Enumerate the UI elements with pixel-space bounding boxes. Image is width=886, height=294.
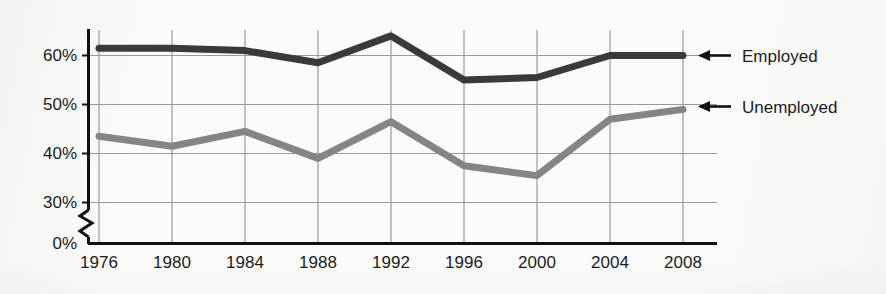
x-tick-label-1992: 1992 <box>372 253 410 272</box>
y-axis-labels: 60% 50% 40% 30% 0% <box>43 46 77 253</box>
y-tick-label-30: 30% <box>43 193 77 212</box>
left-arrow-icon-unemployed <box>698 101 731 112</box>
y-tick-label-50: 50% <box>43 95 77 114</box>
y-tick-label-60: 60% <box>43 46 77 65</box>
x-tick-label-2004: 2004 <box>591 253 629 272</box>
legend-employed: Employed <box>698 47 818 66</box>
x-tick-label-1980: 1980 <box>153 253 191 272</box>
legend-label-employed: Employed <box>742 47 818 66</box>
line-chart-figure: 60% 50% 40% 30% 0% 1976 1980 1984 1988 1… <box>0 0 886 294</box>
x-tick-label-1988: 1988 <box>299 253 337 272</box>
left-arrow-icon-employed <box>698 50 731 61</box>
x-tick-label-1984: 1984 <box>226 253 264 272</box>
chart-svg: 60% 50% 40% 30% 0% 1976 1980 1984 1988 1… <box>0 0 886 294</box>
legend-unemployed: Unemployed <box>698 98 837 117</box>
y-tick-label-40: 40% <box>43 144 77 163</box>
y-tick-label-0: 0% <box>52 234 77 253</box>
axis-break-zigzag-icon <box>80 210 92 237</box>
x-tick-label-2000: 2000 <box>518 253 556 272</box>
x-tick-label-1996: 1996 <box>445 253 483 272</box>
x-tick-label-2008: 2008 <box>664 253 702 272</box>
x-tick-label-1976: 1976 <box>80 253 118 272</box>
y-axis <box>80 29 92 244</box>
x-axis-labels: 1976 1980 1984 1988 1992 1996 2000 2004 … <box>80 253 702 272</box>
legend-label-unemployed: Unemployed <box>742 98 837 117</box>
